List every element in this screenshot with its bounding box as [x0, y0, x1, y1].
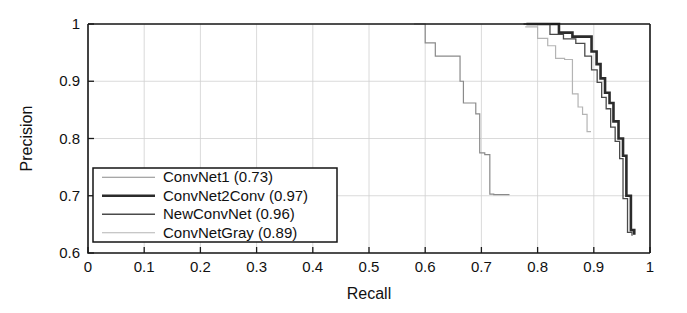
legend-label-convnet2conv: ConvNet2Conv (0.97)	[163, 187, 308, 204]
x-tick-label: 0.8	[527, 258, 548, 275]
y-tick-label: 0.7	[59, 187, 80, 204]
chart-legend: ConvNet1 (0.73)ConvNet2Conv (0.97)NewCon…	[93, 168, 337, 242]
x-tick-label: 0.6	[415, 258, 436, 275]
x-tick-label: 0.3	[246, 258, 267, 275]
legend-label-convnetgray: ConvNetGray (0.89)	[163, 224, 297, 241]
x-axis-title: Recall	[347, 285, 391, 302]
x-tick-label: 0.7	[471, 258, 492, 275]
x-tick-label: 0.5	[359, 258, 380, 275]
x-tick-label: 0.1	[134, 258, 155, 275]
y-tick-label: 0.8	[59, 130, 80, 147]
precision-recall-chart: 00.10.20.30.40.50.60.70.80.910.60.70.80.…	[0, 0, 687, 313]
legend-label-newconvnet: NewConvNet (0.96)	[163, 205, 295, 222]
x-tick-label: 0	[84, 258, 92, 275]
x-tick-label: 1	[646, 258, 654, 275]
x-tick-label: 0.9	[583, 258, 604, 275]
x-tick-label: 0.2	[190, 258, 211, 275]
y-tick-label: 0.6	[59, 244, 80, 261]
y-axis-title: Precision	[18, 106, 35, 172]
legend-label-convnet1: ConvNet1 (0.73)	[163, 168, 273, 185]
y-tick-label: 1	[72, 15, 80, 32]
y-tick-label: 0.9	[59, 72, 80, 89]
x-tick-label: 0.4	[302, 258, 323, 275]
